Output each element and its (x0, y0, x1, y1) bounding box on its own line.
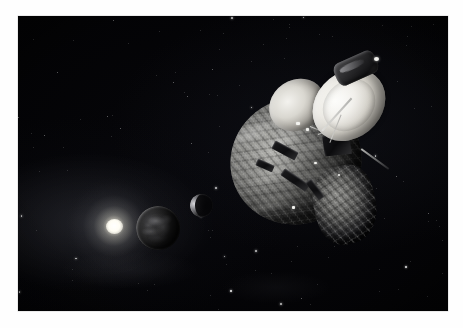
artwork-frame (0, 0, 463, 328)
pluto-limb-light (136, 206, 180, 250)
moon-charon (190, 194, 213, 217)
deep-space-background (18, 16, 448, 311)
charon-limb-light (190, 194, 213, 217)
space-scene-plate (18, 16, 448, 311)
planet-pluto (136, 206, 180, 250)
